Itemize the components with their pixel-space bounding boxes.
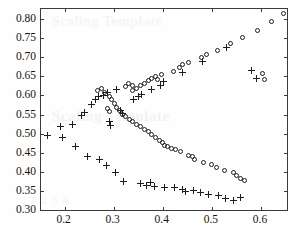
y-tick-mark xyxy=(284,38,287,39)
data-point-plus xyxy=(95,93,102,100)
data-point-circle xyxy=(201,160,206,165)
data-point-plus xyxy=(120,178,127,185)
data-point-circle xyxy=(269,19,274,24)
x-tick-mark xyxy=(163,207,164,210)
data-point-circle xyxy=(186,60,191,65)
data-point-circle xyxy=(214,165,219,170)
y-tick-label: 0.70 xyxy=(16,50,36,62)
data-point-plus xyxy=(138,91,145,98)
y-tick-mark xyxy=(284,19,287,20)
data-point-circle xyxy=(169,146,174,151)
data-point-plus xyxy=(215,192,222,199)
data-point-plus xyxy=(78,112,85,119)
y-tick-mark xyxy=(41,57,44,58)
data-point-plus xyxy=(103,162,110,169)
x-tick-mark xyxy=(65,9,66,12)
y-tick-mark xyxy=(41,38,44,39)
x-tick-mark xyxy=(261,9,262,12)
data-point-plus xyxy=(197,189,204,196)
data-point-circle xyxy=(114,105,119,110)
data-point-plus xyxy=(137,180,144,187)
data-point-plus xyxy=(171,184,178,191)
data-point-circle xyxy=(177,65,182,70)
y-tick-label: 0.35 xyxy=(16,184,36,196)
data-point-circle xyxy=(153,74,158,79)
data-point-plus xyxy=(84,153,91,160)
y-tick-mark xyxy=(284,210,287,211)
data-point-circle xyxy=(190,154,195,159)
y-tick-mark xyxy=(284,95,287,96)
plot-canvas xyxy=(41,9,287,210)
data-point-circle xyxy=(105,106,110,111)
data-point-plus xyxy=(205,191,212,198)
data-point-circle xyxy=(112,101,117,106)
data-point-plus xyxy=(161,184,168,191)
x-tick-label: 0.3 xyxy=(105,213,119,225)
data-point-circle xyxy=(127,117,132,122)
y-tick-label: 0.55 xyxy=(16,108,36,120)
data-point-circle xyxy=(159,72,164,77)
y-tick-mark xyxy=(41,115,44,116)
data-point-plus xyxy=(151,183,158,190)
data-point-circle xyxy=(180,62,185,67)
x-tick-label: 0.2 xyxy=(56,213,70,225)
y-tick-mark xyxy=(41,172,44,173)
data-point-circle xyxy=(123,84,128,89)
data-point-plus xyxy=(148,86,155,93)
data-point-circle xyxy=(199,55,204,60)
data-point-plus xyxy=(179,186,186,193)
y-tick-mark xyxy=(41,95,44,96)
data-point-circle xyxy=(142,81,147,86)
data-point-plus xyxy=(147,179,154,186)
data-point-circle xyxy=(178,149,183,154)
data-point-plus xyxy=(230,197,237,204)
data-point-circle xyxy=(162,143,167,148)
y-tick-mark xyxy=(41,210,44,211)
x-tick-label: 0.5 xyxy=(204,213,218,225)
y-tick-mark xyxy=(41,19,44,20)
data-point-plus xyxy=(135,93,142,100)
data-point-circle xyxy=(240,35,245,40)
data-point-circle xyxy=(228,41,233,46)
data-point-plus xyxy=(119,110,126,117)
x-tick-mark xyxy=(114,207,115,210)
data-point-circle xyxy=(107,94,112,99)
x-axis-tick-labels: 0.20.30.40.50.6 xyxy=(40,213,288,233)
data-point-plus xyxy=(44,132,51,139)
y-tick-label: 0.65 xyxy=(16,69,36,81)
data-point-circle xyxy=(130,83,135,88)
data-point-plus xyxy=(112,169,119,176)
data-point-plus xyxy=(72,143,79,150)
data-point-plus xyxy=(143,182,150,189)
x-tick-mark xyxy=(212,207,213,210)
y-tick-mark xyxy=(284,76,287,77)
y-tick-label: 0.40 xyxy=(16,165,36,177)
y-tick-mark xyxy=(41,191,44,192)
x-tick-mark xyxy=(65,207,66,210)
data-point-circle xyxy=(142,127,147,132)
data-point-circle xyxy=(255,28,260,33)
data-point-circle xyxy=(134,122,139,127)
y-tick-mark xyxy=(41,153,44,154)
data-point-circle xyxy=(138,124,143,129)
data-point-circle xyxy=(157,138,162,143)
data-point-circle xyxy=(165,144,170,149)
data-point-circle xyxy=(260,71,265,76)
data-point-plus xyxy=(57,123,64,130)
data-point-circle xyxy=(134,86,139,91)
data-point-circle xyxy=(95,88,100,93)
data-point-plus xyxy=(69,121,76,128)
y-tick-mark xyxy=(284,191,287,192)
data-point-plus xyxy=(88,101,95,108)
x-tick-mark xyxy=(114,9,115,12)
data-point-plus xyxy=(92,96,99,103)
data-point-circle xyxy=(138,83,143,88)
data-point-plus xyxy=(160,78,167,85)
y-tick-label: 0.50 xyxy=(16,127,36,139)
data-point-plus xyxy=(199,58,206,65)
data-point-circle xyxy=(215,48,220,53)
y-tick-mark xyxy=(284,172,287,173)
scatter-plot-figure: Scaling TemplateScaling Template1 2 3 4 … xyxy=(0,0,296,244)
data-point-circle xyxy=(149,76,154,81)
data-point-circle xyxy=(146,78,151,83)
